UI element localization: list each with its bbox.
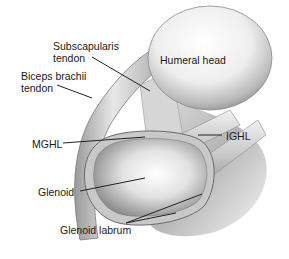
label-humeral-head: Humeral head <box>160 54 226 66</box>
label-biceps-line1: Biceps brachii <box>21 70 86 82</box>
label-biceps-brachii-tendon: Biceps brachii tendon <box>21 70 86 94</box>
label-glenoid-labrum: Glenoid labrum <box>60 224 131 236</box>
glenoid-fossa <box>94 139 207 217</box>
label-ighl: IGHL <box>226 130 251 142</box>
label-mghl: MGHL <box>32 138 62 150</box>
shoulder-anatomy-diagram: Subscapularis tendon Humeral head Biceps… <box>0 0 289 259</box>
label-glenoid: Glenoid <box>38 186 74 198</box>
label-subscapularis-line2: tendon <box>53 52 119 64</box>
label-biceps-line2: tendon <box>21 82 86 94</box>
label-subscapularis-tendon: Subscapularis tendon <box>53 40 119 64</box>
label-subscapularis-line1: Subscapularis <box>53 40 119 52</box>
